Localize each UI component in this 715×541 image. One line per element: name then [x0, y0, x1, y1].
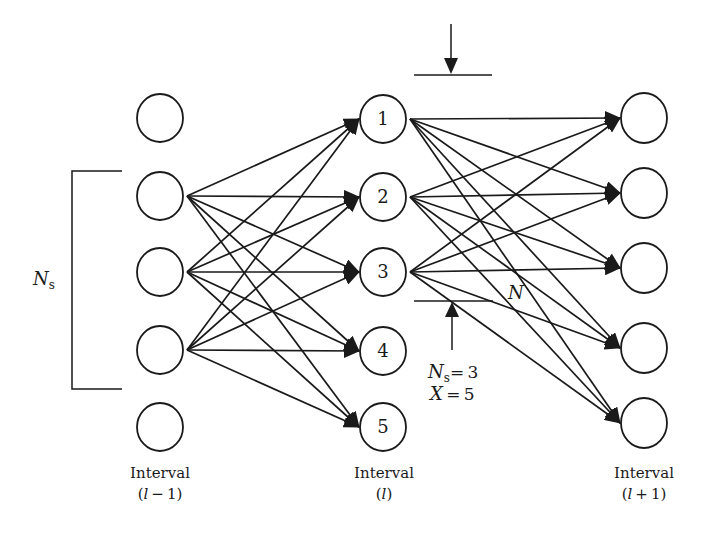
ns-bracket-label: Ns — [32, 268, 55, 292]
node-middle-5: 5 — [360, 403, 406, 451]
x-value-label: X = 5 — [428, 383, 475, 404]
left-to-middle-edge — [187, 119, 359, 350]
up-arrow-icon — [445, 302, 459, 317]
ns-bracket: Ns — [32, 171, 122, 389]
ns-value-label: Ns= 3 — [427, 361, 478, 385]
svg-text:Interval: Interval — [130, 464, 190, 482]
node-right-2 — [621, 168, 667, 218]
caption-right: Interval (l + 1) — [614, 464, 674, 503]
node-label: 5 — [377, 416, 388, 437]
node-left-3 — [137, 248, 183, 296]
down-arrow-icon — [444, 58, 458, 74]
window-bottom-marker — [414, 301, 493, 350]
svg-text:(l): (l) — [376, 485, 393, 503]
node-right-1 — [621, 93, 667, 143]
middle-to-right-edge — [410, 193, 620, 272]
n-label: N — [507, 282, 525, 303]
middle-to-right-edge — [410, 118, 620, 119]
svg-text:(l − 1): (l − 1) — [138, 485, 183, 503]
left-to-middle-edge — [187, 119, 359, 196]
node-right-5 — [621, 398, 667, 448]
svg-text:(l + 1): (l + 1) — [622, 485, 667, 503]
caption-left: Interval (l − 1) — [130, 464, 190, 503]
caption-middle: Interval (l) — [354, 464, 414, 503]
node-label: 2 — [377, 186, 388, 207]
middle-to-right-edge — [410, 197, 620, 348]
node-left-2 — [137, 172, 183, 220]
node-left-5 — [137, 403, 183, 451]
node-middle-4: 4 — [360, 327, 406, 375]
node-left-4 — [137, 326, 183, 374]
node-label: 1 — [377, 108, 388, 129]
svg-text:Interval: Interval — [614, 464, 674, 482]
node-left-1 — [137, 94, 183, 142]
node-right-3 — [621, 243, 667, 293]
node-middle-1: 1 — [360, 95, 406, 143]
window-top-marker — [414, 24, 492, 75]
left-to-middle-edge — [187, 350, 359, 351]
node-right-4 — [621, 323, 667, 373]
node-middle-3: 3 — [360, 248, 406, 296]
node-label: 4 — [377, 340, 388, 361]
middle-to-right-edge — [410, 119, 620, 348]
left-to-middle-edge — [187, 350, 359, 427]
svg-text:Interval: Interval — [354, 464, 414, 482]
node-middle-2: 2 — [360, 173, 406, 221]
node-label: 3 — [377, 261, 388, 282]
sliding-window-network-diagram: 12345 Ns N Ns= 3 X = 5 Interval (l − 1) … — [0, 0, 715, 541]
